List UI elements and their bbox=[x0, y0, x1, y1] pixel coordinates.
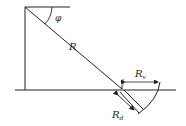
bucket-arc bbox=[138, 82, 160, 114]
rd-label: Rd bbox=[111, 109, 124, 121]
angle-arc bbox=[45, 7, 52, 24]
radius-label: R bbox=[68, 41, 77, 52]
rv-label: Rv bbox=[134, 68, 147, 80]
angle-label: φ bbox=[55, 13, 62, 23]
diagram-canvas: φ R Rv Rd bbox=[0, 0, 186, 126]
